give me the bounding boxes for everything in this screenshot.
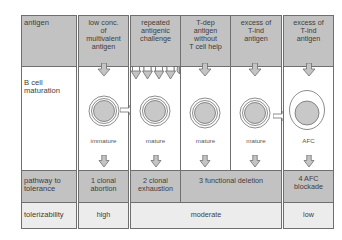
c2-antigen-line: challenge <box>131 35 180 43</box>
down-arrow-icon <box>150 155 162 168</box>
c5-tolerizability: low <box>284 211 333 219</box>
mature-b-cell-icon <box>139 95 171 127</box>
divider <box>180 170 181 202</box>
row-label-maturation-line2: maturation <box>24 87 76 95</box>
c2-pathway-line: exhaustion <box>131 185 180 193</box>
afc-cell-icon <box>288 89 326 131</box>
mature-b-cell-icon <box>239 97 271 129</box>
c1-cell-stage: immature <box>79 137 128 144</box>
c2-cell-stage: mature <box>131 137 180 144</box>
row-label-tolerizability: tolerizability <box>24 211 76 219</box>
row-label-antigen: antigen <box>24 19 76 27</box>
mature-b-cell-icon <box>189 97 221 129</box>
c5-antigen-line: antigen <box>284 35 333 43</box>
c3-cell-stage: mature <box>181 137 230 144</box>
row-label-pathway-line2: tolerance <box>24 185 76 193</box>
c3-pathway: 3 functional deletion <box>181 177 281 185</box>
c4-antigen-line: antigen <box>231 35 281 43</box>
c1-pathway-line: abortion <box>79 185 128 193</box>
down-arrow-icon <box>303 155 315 168</box>
c1-tolerizability: high <box>79 211 128 219</box>
down-arrow-icon <box>248 63 262 77</box>
down-arrow-icon <box>98 155 110 168</box>
repeated-arrows-icon <box>131 63 180 81</box>
c2-tolerizability: moderate <box>131 211 281 219</box>
c1-antigen-line: antigen <box>79 43 128 51</box>
c5-cell-stage: AFC <box>284 137 333 144</box>
down-arrow-icon <box>302 63 316 77</box>
down-arrow-icon <box>97 63 111 77</box>
c5-pathway-line: blockade <box>284 183 333 191</box>
down-arrow-icon <box>198 63 212 77</box>
c4-cell-stage: mature <box>231 137 281 144</box>
down-arrow-icon <box>249 155 261 168</box>
c3-antigen-line: T cell help <box>181 43 230 51</box>
divider <box>21 66 77 67</box>
immature-b-cell-icon <box>88 95 120 127</box>
down-arrow-icon <box>199 155 211 168</box>
